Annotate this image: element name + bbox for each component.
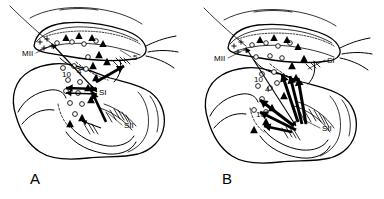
brain-outline-a <box>13 64 164 159</box>
marker-filled-triangle <box>250 126 258 133</box>
cortical-strip-a <box>10 6 178 68</box>
area-mii: MII <box>214 54 225 63</box>
marker-filled-triangle <box>99 40 106 47</box>
area-10b: 10 <box>256 110 265 119</box>
area-mii: MII <box>22 49 33 58</box>
panel-letter-b: B <box>222 170 232 187</box>
marker-filled-triangle <box>89 62 97 69</box>
marker-filled-triangle <box>288 62 296 69</box>
marker-filled-triangle <box>103 58 111 65</box>
area-labels-b: MIISISII10410 <box>214 54 335 133</box>
area-4: 4 <box>77 67 82 76</box>
marker-open-circle <box>68 101 73 106</box>
panel-b: MIISISII10410 B <box>192 0 384 199</box>
marker-filled-triangle <box>78 114 86 121</box>
marker-open-circle <box>82 42 87 47</box>
marker-filled-triangle <box>300 55 308 62</box>
marker-open-circle <box>268 54 273 59</box>
marker-filled-triangle <box>88 34 95 41</box>
marker-cross <box>231 43 236 48</box>
arrow-sii-in <box>82 120 101 128</box>
marker-open-circle <box>73 112 78 117</box>
area-5: 5 <box>133 53 138 62</box>
area-sii: SII <box>322 124 332 133</box>
marker-open-circle <box>86 55 91 60</box>
marker-open-circle <box>250 43 255 48</box>
marker-open-circle <box>275 81 280 86</box>
panel-letter-a: A <box>30 170 40 187</box>
marker-open-circle <box>264 41 269 46</box>
marker-filled-triangle <box>283 36 290 43</box>
marker-filled-triangle <box>280 92 288 99</box>
area-4: 4 <box>265 85 270 94</box>
marker-filled-triangle <box>256 36 263 43</box>
marker-open-circle <box>276 44 281 49</box>
figure-root: MII5SISII104 A <box>0 0 384 199</box>
marker-filled-triangle <box>270 34 277 41</box>
marker-open-circle <box>55 41 60 46</box>
leader-si <box>308 60 325 69</box>
leader-mii <box>228 49 246 58</box>
marker-open-circle <box>256 84 261 89</box>
marker-filled-triangle <box>95 51 103 58</box>
area-10: 10 <box>254 75 263 84</box>
marker-filled-triangle <box>75 32 82 39</box>
area-si: SI <box>99 88 107 97</box>
area-si: SI <box>327 56 335 65</box>
marker-filled-triangle <box>66 120 74 127</box>
marker-open-circle <box>272 70 277 75</box>
marker-open-circle <box>78 80 83 85</box>
marker-filled-triangle <box>62 34 69 41</box>
panel-a: MII5SISII104 A <box>0 0 192 199</box>
area-sii: SII <box>124 121 134 130</box>
area-10: 10 <box>62 70 71 79</box>
marker-open-circle <box>84 67 89 72</box>
marker-open-circle <box>254 55 259 60</box>
marker-open-circle <box>70 40 75 45</box>
marker-open-circle <box>80 102 85 107</box>
marker-open-circle <box>280 56 285 61</box>
